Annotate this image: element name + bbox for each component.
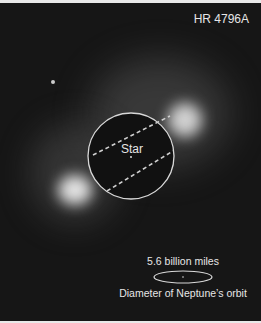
scale-distance: 5.6 billion miles xyxy=(147,255,219,267)
scale-caption: Diameter of Neptune’s orbit xyxy=(119,287,247,299)
star-label: Star xyxy=(121,142,143,156)
object-title: HR 4796A xyxy=(194,12,249,26)
overlay-graphics xyxy=(0,3,261,321)
telescope-image: HR 4796A Star 5.6 billion miles Diameter… xyxy=(0,3,261,321)
